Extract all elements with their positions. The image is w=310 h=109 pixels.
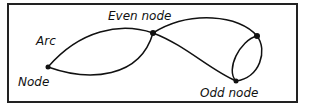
label-even-node: Even node — [108, 9, 171, 23]
edge-right-odd-left — [232, 36, 257, 81]
node-even — [150, 30, 156, 36]
label-odd-node: Odd node — [200, 86, 258, 100]
label-node: Node — [18, 75, 49, 89]
node-odd — [234, 79, 239, 84]
edge-even-odd — [153, 33, 236, 81]
edge-right-odd-right — [236, 36, 262, 81]
node-right — [254, 33, 260, 39]
edge-node-even-lower — [48, 33, 153, 75]
graph-diagram: Arc Node Even node Odd node — [0, 0, 310, 109]
node-left — [46, 65, 51, 70]
label-arc: Arc — [35, 34, 56, 48]
edge-node-even-upper — [48, 28, 153, 67]
